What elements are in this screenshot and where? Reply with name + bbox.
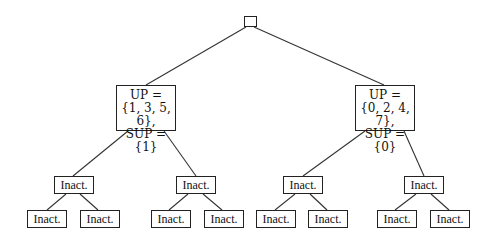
inactive-leaf: Inact. (27, 210, 67, 228)
left-subtree-node: UP = {1, 3, 5, 6}, SUP = {1} (116, 85, 176, 131)
inactive-node: Inact. (54, 176, 94, 194)
right-subtree-node: UP = {0, 2, 4, 7}, SUP = {0} (355, 85, 415, 131)
inactive-leaf: Inact. (80, 210, 120, 228)
inactive-node: Inact. (176, 176, 216, 194)
inactive-leaf: Inact. (256, 210, 296, 228)
inactive-leaf: Inact. (204, 210, 244, 228)
inactive-node: Inact. (404, 176, 444, 194)
right-sup-label: SUP = {0} (356, 128, 414, 154)
inactive-leaf: Inact. (151, 210, 191, 228)
left-sup-label: SUP = {1} (117, 128, 175, 154)
root-node (244, 16, 257, 27)
tree-edges (0, 0, 491, 241)
inactive-leaf: Inact. (377, 210, 417, 228)
right-up-set: {0, 2, 4, 7}, (356, 102, 414, 128)
inactive-node: Inact. (283, 176, 323, 194)
left-up-set: {1, 3, 5, 6}, (117, 102, 175, 128)
inactive-leaf: Inact. (308, 210, 348, 228)
inactive-leaf: Inact. (430, 210, 470, 228)
